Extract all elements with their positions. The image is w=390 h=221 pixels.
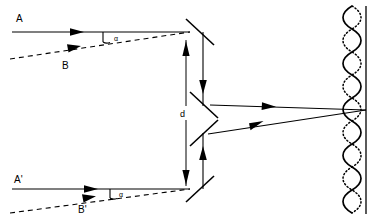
ray-a-prime-arrowhead <box>84 185 98 193</box>
upper-beam-group: α A B <box>10 13 190 71</box>
lower-beam-group: α A' B' <box>10 174 190 215</box>
ray-b-line <box>10 32 190 59</box>
interference-diagram: α A B α A' B' <box>0 0 390 221</box>
diagram-canvas: α A B α A' B' <box>0 0 390 221</box>
dimension-arrowhead-top <box>182 41 189 56</box>
mirror-top <box>186 19 214 45</box>
output-ray-group <box>208 102 366 134</box>
ray-b-prime-line <box>10 189 190 213</box>
label-ray-a-prime: A' <box>14 174 23 185</box>
separation-dimension: d <box>178 40 194 186</box>
internal-ray-group <box>199 32 207 189</box>
angle-arc-lower <box>110 198 117 199</box>
label-ray-b-prime: B' <box>78 204 87 215</box>
output-ray-lower <box>208 110 366 134</box>
mirror-bottom <box>186 176 214 202</box>
output-ray-upper-arrowhead <box>262 102 276 110</box>
ray-b-arrowhead <box>67 44 81 52</box>
dimension-label-d: d <box>180 109 185 119</box>
ray-a-arrowhead <box>70 28 84 36</box>
label-ray-b: B <box>62 60 69 71</box>
label-ray-a: A <box>16 13 23 24</box>
angle-arc-upper <box>103 42 110 43</box>
internal-ray-upper-arrowhead <box>199 80 207 94</box>
dimension-arrowhead-bottom <box>182 170 189 185</box>
angle-label-upper: α <box>114 35 118 42</box>
angle-label-lower: α <box>119 191 123 198</box>
internal-ray-lower-arrowhead <box>199 146 207 160</box>
